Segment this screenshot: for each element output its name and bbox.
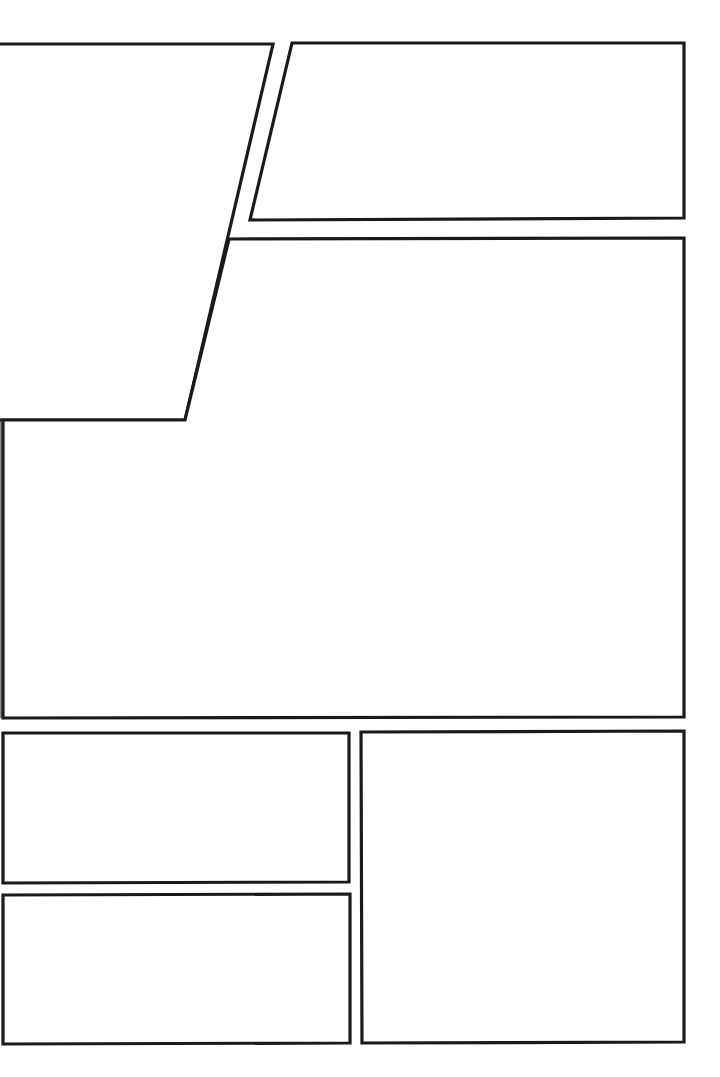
panel-layout <box>0 0 720 1077</box>
panel-2 <box>250 43 684 220</box>
comic-page <box>0 0 720 1077</box>
panel-4 <box>3 733 349 883</box>
panel-6 <box>361 731 684 1043</box>
panel-5 <box>3 894 350 1044</box>
